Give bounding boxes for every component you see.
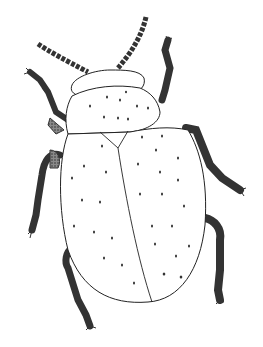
- pronotum: [66, 86, 160, 134]
- beetle-illustration: Pen-and-ink illustration of a beetle see…: [0, 0, 263, 347]
- leg-front-left: [24, 68, 68, 134]
- leg-hind-right: [205, 218, 224, 304]
- elytra: [61, 128, 206, 303]
- antenna-right: [118, 17, 146, 68]
- leg-front-right: [162, 36, 172, 100]
- beetle-drawing: [0, 0, 263, 347]
- leg-mid-left: [28, 150, 60, 238]
- antenna-left: [38, 44, 88, 72]
